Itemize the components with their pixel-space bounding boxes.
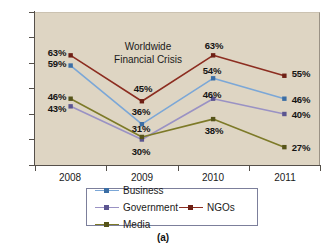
data-label-government-2008: 43% bbox=[48, 103, 66, 114]
marker-media-2011 bbox=[282, 145, 286, 149]
data-label-business-2009: 36% bbox=[132, 106, 150, 117]
series-line-government bbox=[71, 99, 285, 140]
marker-business-2011 bbox=[282, 97, 286, 101]
annotation-line-2: Financial Crisis bbox=[114, 53, 182, 66]
data-label-government-2009: 30% bbox=[132, 146, 150, 157]
data-label-government-2010: 46% bbox=[203, 89, 221, 100]
figure-caption: (a) bbox=[157, 232, 169, 243]
annotation-financial-crisis: Worldwide Financial Crisis bbox=[114, 40, 182, 66]
data-label-ngos-2011: 55% bbox=[292, 68, 310, 79]
marker-business-2008 bbox=[68, 63, 72, 67]
data-label-business-2010: 54% bbox=[203, 65, 221, 76]
marker-government-2008 bbox=[68, 104, 72, 108]
marker-business-2010 bbox=[211, 76, 215, 80]
marker-ngos-2011 bbox=[282, 74, 286, 78]
data-label-media-2008: 46% bbox=[48, 91, 66, 102]
data-label-business-2008: 59% bbox=[48, 58, 66, 69]
legend-label-media: Media bbox=[123, 219, 150, 230]
legend-label-government: Government bbox=[123, 202, 178, 213]
marker-media-2008 bbox=[68, 97, 72, 101]
marker-ngos-2009 bbox=[140, 99, 144, 103]
legend-item-media[interactable]: Media bbox=[95, 216, 179, 233]
data-label-ngos-2010: 63% bbox=[205, 40, 223, 51]
legend-label-business: Business bbox=[123, 185, 164, 196]
marker-media-2010 bbox=[211, 117, 215, 121]
data-label-business-2011: 46% bbox=[292, 94, 310, 105]
series-line-media bbox=[71, 99, 285, 147]
legend-item-ngos[interactable]: NGOs bbox=[179, 199, 241, 216]
data-label-government-2011: 40% bbox=[292, 109, 310, 120]
data-label-media-2011: 27% bbox=[292, 142, 310, 153]
data-label-ngos-2009: 45% bbox=[134, 83, 152, 94]
data-label-ngos-2008: 63% bbox=[48, 47, 66, 58]
legend-item-business[interactable]: Business bbox=[95, 182, 169, 199]
data-label-media-2009: 31% bbox=[132, 123, 150, 134]
chart-legend: Business Government NGOs Media bbox=[86, 188, 258, 226]
marker-government-2011 bbox=[282, 112, 286, 116]
legend-swatch-government-icon bbox=[95, 203, 119, 212]
legend-item-government[interactable]: Government bbox=[95, 199, 179, 216]
legend-swatch-media-icon bbox=[95, 220, 119, 229]
legend-swatch-business-icon bbox=[95, 186, 119, 195]
marker-media-2009 bbox=[140, 135, 144, 139]
legend-swatch-ngos-icon bbox=[179, 203, 203, 212]
annotation-line-1: Worldwide bbox=[114, 40, 182, 53]
figure-container: 80% 70% 60% 50% 40% 30% 20% 2008 2009 20… bbox=[0, 0, 327, 250]
legend-label-ngos: NGOs bbox=[207, 202, 235, 213]
data-label-media-2010: 38% bbox=[205, 125, 223, 136]
marker-ngos-2010 bbox=[211, 53, 215, 57]
marker-ngos-2008 bbox=[68, 53, 72, 57]
